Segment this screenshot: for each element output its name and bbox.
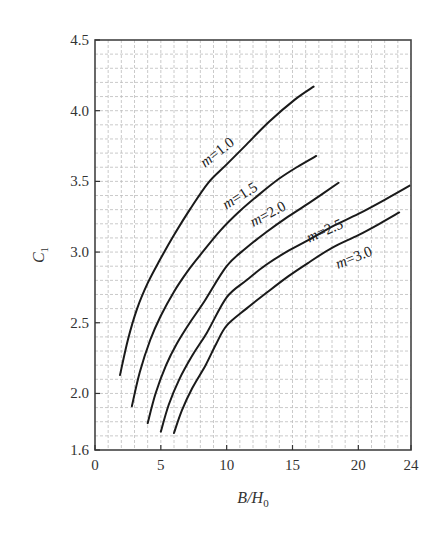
curve-m-1-5 [132, 156, 316, 406]
curve-label: m=3.0 [333, 243, 374, 272]
chart: 0510152024 1.62.02.53.03.54.04.5 m=1.0m=… [0, 0, 439, 537]
x-tick-label: 0 [91, 457, 99, 473]
curve-m-1-0 [120, 87, 314, 375]
y-tick-label: 2.0 [70, 385, 89, 401]
y-tick-label: 2.5 [70, 315, 89, 331]
x-axis-title: B/H0 [237, 489, 269, 509]
x-tick-label: 15 [285, 457, 300, 473]
x-tick-label: 24 [404, 457, 420, 473]
x-tick-label: 20 [351, 457, 366, 473]
y-tick-labels: 1.62.02.53.03.54.04.5 [70, 32, 89, 458]
x-tick-label: 10 [219, 457, 234, 473]
y-tick-label: 3.5 [70, 173, 89, 189]
curve-label: m=1.0 [197, 134, 237, 170]
y-tick-label: 3.0 [70, 244, 89, 260]
x-tick-label: 5 [157, 457, 165, 473]
curve-label: m=2.5 [304, 215, 345, 245]
x-tick-labels: 0510152024 [91, 457, 419, 473]
y-tick-label: 4.5 [70, 32, 89, 48]
y-axis-title: C1 [30, 247, 50, 263]
y-tick-label: 1.6 [70, 442, 89, 458]
y-tick-label: 4.0 [70, 103, 89, 119]
